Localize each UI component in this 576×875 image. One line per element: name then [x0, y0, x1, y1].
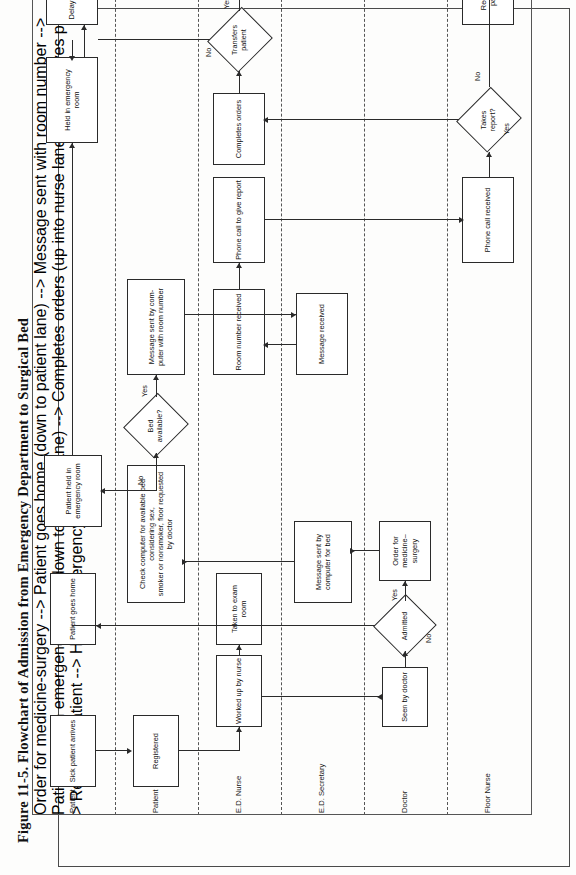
edge-transfers-yes-h [239, 0, 240, 11]
lane-separator-bottom [531, 0, 532, 815]
lane-label-ed-secretary: E.D. Secretary [317, 764, 326, 813]
edge-phonereceived-to-takes-arrow [486, 152, 492, 157]
node-held-in-emergency-room[interactable]: Held in emergency room [46, 57, 98, 143]
edge-roomnum-to-received-arrow [291, 312, 296, 318]
swimlane-flowchart: Patient Patient Registration E.D. Nurse … [32, 0, 532, 815]
edge-bed-no-h [156, 458, 157, 491]
edge-message-to-check-v [185, 561, 294, 562]
edge-arrives-to-registered [96, 750, 127, 751]
edge-admitted-no-arrow [96, 623, 101, 629]
edge-workedup-to-seen-arrow [377, 694, 382, 700]
decision-bed-available-label: Bed available? [126, 393, 186, 459]
edge-label-admitted-yes: Yes [390, 589, 399, 601]
edge-registered-to-workedup-v2 [216, 750, 239, 751]
edge-transfers-no-arrow [69, 56, 75, 61]
node-message-received[interactable]: Message received [296, 293, 348, 375]
node-receives-patient[interactable]: Receives patient [462, 0, 514, 25]
edge-label-transfers-no: No [204, 48, 213, 57]
edge-roomnum-to-received-v [185, 314, 296, 315]
node-registered[interactable]: Registered [133, 715, 179, 787]
decision-admitted-label: Admitted [375, 595, 435, 657]
edge-givereport-to-received-arrow [459, 217, 464, 223]
edge-order-to-message-v [352, 550, 379, 551]
decision-transfers-patient-label: Transfers patient [210, 7, 270, 73]
edge-label-transfers-yes: Yes [222, 0, 231, 9]
edge-patientheld-to-held-h [72, 143, 73, 455]
node-completes-orders[interactable]: Completes orders [213, 93, 265, 165]
node-delay-resolved[interactable]: Delay resolved [46, 0, 98, 25]
edge-givereport-to-received-v [265, 219, 462, 220]
edge-bed-no-arrow [100, 488, 105, 494]
lane-separator-doctor-floornurse [447, 0, 448, 815]
lane-separator-registration-ednurse [198, 0, 199, 815]
lane-separator-top [32, 0, 33, 815]
edge-label-bed-yes: Yes [140, 385, 149, 397]
node-message-sent-with-room-number-label: Message sent by com- puter with room num… [147, 288, 166, 366]
edge-admitted-yes-arrow [402, 581, 408, 586]
lane-separator-patient-registration [115, 0, 116, 815]
lane-separator-ednurse-edsecretary [281, 0, 282, 815]
edge-takes-no-h [489, 0, 490, 87]
node-message-sent-by-computer-for-bed[interactable]: Message sent by computer for bed [294, 521, 352, 603]
edge-label-takes-no: No [473, 72, 482, 81]
edge-bed-no-v [102, 490, 156, 491]
edge-registered-to-workedup-arrow [236, 727, 242, 732]
node-taken-to-exam-room[interactable]: Taken to exam room [216, 573, 262, 645]
lane-gutter-rule [32, 814, 532, 815]
edge-order-to-message-arrow [350, 548, 355, 554]
node-order-for-medicine-surgery-label: Order for medicine–surgery [391, 524, 419, 578]
edge-completes-to-transfers-arrow [236, 71, 242, 76]
decision-bed-available[interactable]: Bed available? [126, 393, 186, 459]
edge-takes-yes-v [265, 119, 459, 120]
decision-takes-report-label: Takes report? [459, 87, 519, 153]
edge-roomnum-to-phonecall-arrow [236, 263, 242, 268]
node-message-sent-with-room-number[interactable]: Message sent by com- puter with room num… [127, 279, 185, 375]
lane-label-doctor: Doctor [400, 791, 409, 813]
edge-label-bed-no: No [136, 476, 145, 485]
figure-page: Figure 11-5. Flowchart of Admission from… [0, 0, 576, 875]
lane-label-patient: Patient [68, 789, 77, 813]
node-phone-call-received[interactable]: Phone call received [462, 177, 514, 263]
edge-takes-yes-arrow [263, 117, 268, 123]
edge-arrives-to-registered-arrow [127, 748, 132, 754]
edge-patientheld-to-held-arrow [69, 143, 75, 148]
edge-workedup-to-exam-arrow [236, 645, 242, 650]
lane-separator-edsecretary-doctor [364, 0, 365, 815]
edge-transfers-no-h [72, 40, 73, 57]
lane-label-ed-nurse: E.D. Nurse [234, 776, 243, 813]
decision-transfers-patient[interactable]: Transfers patient [210, 7, 270, 73]
edge-label-admitted-no: No [424, 634, 433, 643]
node-patient-goes-home[interactable]: Patient goes home [50, 573, 96, 645]
node-worked-up-by-nurse[interactable]: Worked up by nurse [216, 655, 262, 727]
edge-held-to-delay-arrow [81, 25, 87, 30]
lane-label-floor-nurse: Floor Nurse [483, 773, 492, 813]
node-message-sent-by-computer-for-bed-label: Message sent by computer for bed [314, 534, 333, 590]
edge-bed-yes-arrow [153, 375, 159, 380]
node-order-for-medicine-surgery[interactable]: Order for medicine–surgery [379, 521, 431, 581]
edge-received-to-roomnum-v [265, 344, 296, 345]
node-room-number-received[interactable]: Room number received [213, 289, 265, 375]
edge-transfers-no-v [98, 39, 210, 40]
decision-takes-report[interactable]: Takes report? [459, 87, 519, 153]
edge-received-to-roomnum-arrow [263, 342, 268, 348]
decision-admitted[interactable]: Admitted [375, 595, 435, 657]
edge-seen-to-admitted-arrow [402, 651, 408, 656]
edge-workedup-to-seen-v [262, 696, 382, 697]
node-patient-held-in-emergency-room[interactable]: Patient held in emergency room [44, 455, 102, 527]
node-phone-call-to-give-report[interactable]: Phone call to give report [213, 177, 265, 263]
node-sick-patient-arrives[interactable]: Sick patient arrives [50, 715, 96, 787]
edge-admitted-no-v [72, 625, 375, 626]
edge-label-takes-yes: Yes [502, 123, 511, 135]
edge-registered-to-workedup-v [179, 750, 216, 751]
edge-message-to-check-arrow [182, 559, 187, 565]
node-seen-by-doctor[interactable]: Seen by doctor [382, 667, 428, 727]
